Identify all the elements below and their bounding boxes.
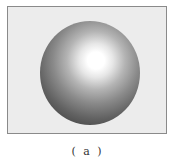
figure-frame [7,6,167,134]
figure-caption: ( a ) [0,145,175,158]
shaded-sphere [40,21,140,125]
